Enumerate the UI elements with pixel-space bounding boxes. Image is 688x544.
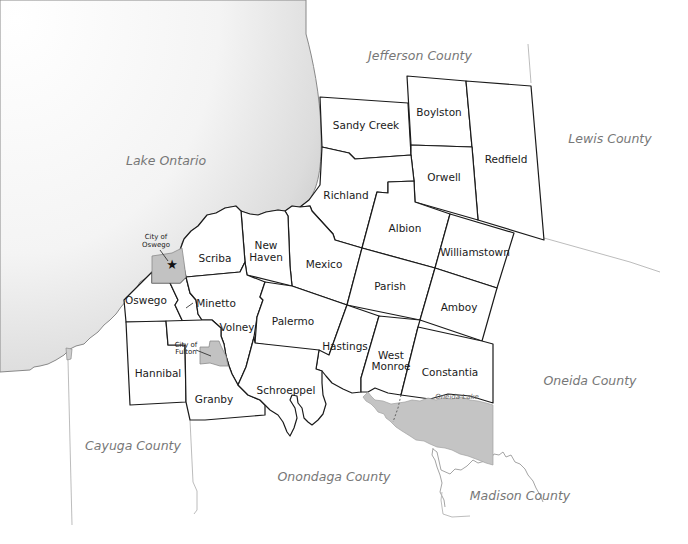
label-albion: Albion [389, 222, 422, 234]
label-palermo: Palermo [272, 315, 314, 327]
label-oswego-town: Oswego [125, 294, 167, 306]
cayuga-line-east [190, 420, 197, 514]
label-scriba: Scriba [199, 252, 232, 264]
label-lewis-county: Lewis County [568, 131, 652, 146]
label-jefferson-county: Jefferson County [365, 48, 472, 63]
label-amboy: Amboy [441, 301, 478, 313]
small-inlet [66, 348, 72, 360]
label-hannibal: Hannibal [135, 367, 182, 379]
label-oneida-county: Oneida County [543, 373, 637, 388]
county-seat-star-icon: ★ [166, 257, 178, 272]
label-constantia: Constantia [422, 366, 479, 378]
label-madison-county: Madison County [470, 488, 571, 503]
label-volney: Volney [219, 321, 254, 333]
label-oneida-lake: Oneida Lake [435, 393, 479, 401]
madison-south-line [441, 492, 470, 517]
oneida-lake [363, 392, 493, 465]
label-sandy-creek: Sandy Creek [333, 119, 400, 131]
label-city-of-oswego-line2: Oswego [142, 241, 170, 249]
label-minetto: Minetto [196, 297, 236, 309]
label-hastings: Hastings [322, 340, 368, 352]
lewis-oneida-line [544, 238, 660, 272]
label-city-of-fulton-line2: Fulton [175, 348, 197, 356]
label-onondaga-county: Onondaga County [277, 469, 391, 484]
label-williamstown: Williamstown [440, 246, 510, 258]
label-lake-ontario: Lake Ontario [126, 153, 206, 168]
jefferson-lewis-line [528, 44, 531, 83]
label-orwell: Orwell [427, 171, 460, 183]
label-cayuga-county: Cayuga County [85, 438, 181, 453]
label-city-of-oswego-line1: City of [145, 233, 168, 241]
label-granby: Granby [195, 393, 233, 405]
oswego-county-map: ★ Jefferson County Lewis County Oneida C… [0, 0, 688, 544]
label-parish: Parish [374, 280, 406, 292]
label-new-haven-line1: New [255, 239, 278, 251]
label-schroeppel: Schroeppel [257, 384, 316, 396]
cayuga-line-west [68, 360, 72, 525]
label-new-haven-line2: Haven [249, 251, 283, 263]
label-west-monroe-line2: Monroe [371, 360, 410, 372]
label-boylston: Boylston [416, 106, 461, 118]
label-redfield: Redfield [485, 153, 528, 165]
label-mexico: Mexico [306, 258, 343, 270]
label-richland: Richland [323, 189, 368, 201]
